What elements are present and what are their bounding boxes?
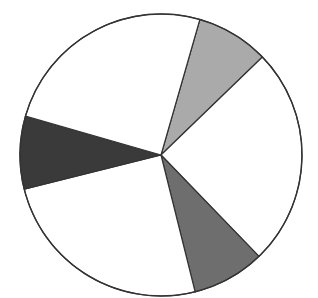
pie-slices <box>20 14 302 296</box>
pie-chart <box>0 0 318 298</box>
pie-chart-svg <box>0 0 318 298</box>
